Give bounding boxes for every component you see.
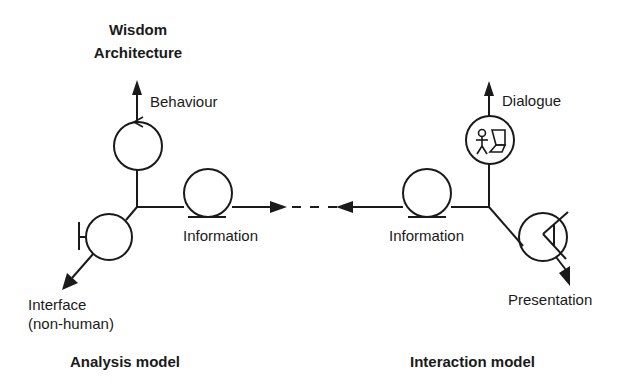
person-icon: [476, 130, 488, 155]
interface-axis-lower-line: [72, 254, 93, 278]
information-label-right: Information: [389, 227, 464, 244]
dialogue-label: Dialogue: [502, 92, 561, 109]
diagram-title-line1: Wisdom: [109, 21, 167, 38]
analysis-model: Behaviour Information Interface (non-hum…: [28, 80, 287, 370]
control-class-icon: [114, 117, 162, 170]
diagram-title-line2: Architecture: [94, 44, 182, 61]
arrow-right-icon: [270, 201, 287, 213]
analysis-model-caption: Analysis model: [70, 353, 180, 370]
entity-class-icon-right: [403, 169, 451, 217]
analysis-information-axis: Information: [137, 201, 287, 244]
computer-icon: [490, 130, 505, 152]
arrow-up-icon: [484, 81, 494, 96]
behaviour-label: Behaviour: [150, 93, 218, 110]
entity-class-icon-left: [184, 169, 232, 217]
arrow-up-icon: [132, 80, 142, 95]
presentation-axis: Presentation: [489, 207, 592, 308]
behaviour-axis: Behaviour: [132, 80, 218, 207]
interface-sublabel: (non-human): [28, 315, 114, 332]
task-class-icon: [466, 116, 514, 164]
interaction-model-caption: Interaction model: [410, 353, 535, 370]
information-label-left: Information: [183, 227, 258, 244]
arrow-down-left-icon: [62, 273, 78, 290]
presentation-axis-lower-line: [556, 257, 566, 270]
presentation-axis-upper-line: [489, 207, 523, 246]
interaction-model: Information Dialogue: [336, 81, 592, 370]
interaction-information-axis: Information: [336, 201, 489, 244]
interface-axis: Interface (non-human): [28, 207, 137, 332]
presentation-label: Presentation: [508, 291, 592, 308]
wisdom-architecture-diagram: Wisdom Architecture Behaviour Informatio…: [0, 0, 641, 390]
interface-label: Interface: [28, 296, 86, 313]
view-class-icon: [519, 212, 568, 261]
interface-axis-upper-line: [126, 207, 137, 220]
arrow-left-icon: [336, 201, 353, 213]
boundary-class-icon: [79, 214, 132, 260]
